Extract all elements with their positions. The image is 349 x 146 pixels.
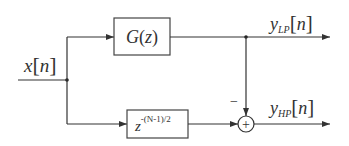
block-diagram: + x[n] G(z) z-(N-1)/2 yLP[n] yHP[n] − [0, 0, 349, 146]
lp-output-label: yLP[n] [268, 11, 313, 35]
input-label: x[n] [23, 52, 57, 77]
hp-output-label: yHP[n] [268, 95, 314, 119]
gz-label: G(z) [126, 27, 158, 48]
summer-plus: + [242, 117, 250, 132]
minus-sign: − [230, 94, 238, 109]
